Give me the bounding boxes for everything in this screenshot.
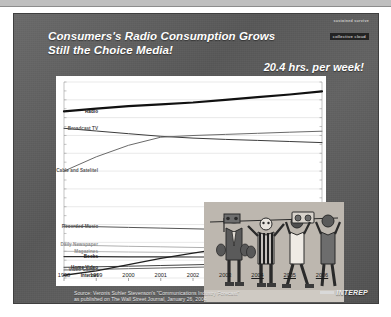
presentation-slide: sustained survive collective cloud Consu… [14, 14, 378, 303]
series-label-broadcast-tv: Broadcast TV [68, 126, 98, 131]
x-tick-2005: 2005 [284, 272, 296, 278]
x-tick-2004: 2004 [251, 272, 263, 278]
headline-line-2: Still the Choice Media! [48, 44, 318, 58]
x-tick-1998: 1998 [58, 272, 70, 278]
people-holding-radios-drawing [204, 202, 344, 302]
series-label-column: RadioBroadcast TVCable and SatelitelReco… [12, 76, 98, 286]
x-tick-2003: 2003 [219, 272, 231, 278]
kicker-text: 20.4 hrs. per week! [264, 61, 364, 73]
series-label-books: Books [84, 254, 98, 259]
brand-bar-icon [320, 291, 334, 294]
series-label-cable-and-satelitel: Cable and Satelitel [56, 168, 98, 173]
x-tick-2006: 2006 [316, 272, 328, 278]
page-title: Consumers's Radio Consumption Grows Stil… [48, 30, 318, 57]
illustration-svg [204, 202, 344, 302]
brand-logo: INTEREP [320, 289, 368, 296]
source-line-2: as published on The Wall Street Journal,… [74, 296, 239, 302]
series-label-radio: Radio [85, 109, 98, 114]
x-axis-labels: 199819992000200120022003200420052006 [56, 272, 326, 284]
headline-line-1: Consumers's Radio Consumption Grows [48, 30, 318, 44]
x-tick-2002: 2002 [187, 272, 199, 278]
top-border-line [0, 6, 391, 7]
series-label-daily-newspaper: Daily Newspaper [60, 242, 98, 247]
brand-wordmark: INTEREP [336, 289, 368, 296]
x-tick-2001: 2001 [155, 272, 167, 278]
source-note: Source: Veronis Suhler Stevenson's "Comm… [74, 290, 239, 303]
screenshot-root: sustained survive collective cloud Consu… [0, 0, 391, 317]
corner-logo-line1: sustained survive [317, 19, 369, 24]
series-label-recorded-music: Recorded Music [62, 224, 98, 229]
x-tick-1999: 1999 [90, 272, 102, 278]
corner-logo: sustained survive collective cloud [317, 19, 369, 42]
corner-logo-line2: collective cloud [330, 33, 369, 40]
x-tick-2000: 2000 [122, 272, 134, 278]
